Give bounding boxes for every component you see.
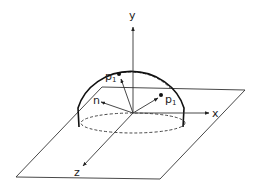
point-label: p <box>105 70 112 83</box>
point-p1-upper <box>117 72 121 76</box>
hemisphere-diagram: y x z n p1 p1 <box>0 0 257 188</box>
hemisphere-base-ellipse <box>81 113 185 133</box>
point-subscript: 1 <box>112 76 116 84</box>
point-p1-right-label: p1 <box>165 93 176 107</box>
z-axis <box>83 113 133 166</box>
z-axis-label: z <box>74 166 80 179</box>
y-axis-label: y <box>129 9 136 22</box>
vector-p1-upper <box>121 79 133 113</box>
x-axis-label: x <box>212 107 219 120</box>
normal-vector <box>101 102 133 113</box>
normal-label: n <box>93 94 100 107</box>
point-subscript: 1 <box>172 99 176 107</box>
vector-p1-right <box>133 98 158 113</box>
point-p1-upper-label: p1 <box>105 70 116 84</box>
point-p1-right <box>159 93 163 97</box>
point-label: p <box>165 93 172 106</box>
